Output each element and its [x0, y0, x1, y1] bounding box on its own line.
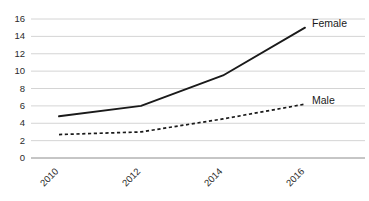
series-line-female [59, 28, 305, 117]
chart-canvas: 0246810121416 2010201220142016 FemaleMal… [0, 0, 369, 201]
gridlines [31, 19, 365, 158]
y-axis-tick-label: 10 [14, 65, 25, 76]
y-axis-tick-label: 4 [20, 117, 25, 128]
y-axis-tick-label: 12 [14, 48, 25, 59]
series-line-male [59, 104, 305, 134]
x-axis-tick-label: 2016 [284, 166, 307, 189]
line-chart: 0246810121416 2010201220142016 FemaleMal… [0, 0, 369, 201]
y-axis-tick-label: 6 [20, 100, 25, 111]
data-series [59, 28, 305, 135]
y-axis-tick-label: 0 [20, 152, 25, 163]
y-axis-tick-label: 16 [14, 13, 25, 24]
y-axis-tick-label: 2 [20, 135, 25, 146]
series-label-male: Male [312, 94, 335, 106]
x-axis-tick-labels: 2010201220142016 [38, 166, 307, 189]
y-axis-tick-label: 8 [20, 83, 25, 94]
series-label-female: Female [312, 17, 347, 29]
x-axis-tick-label: 2014 [202, 166, 225, 189]
x-axis-tick-label: 2010 [38, 166, 61, 189]
series-labels: FemaleMale [312, 17, 347, 105]
y-axis-tick-labels: 0246810121416 [14, 13, 25, 163]
y-axis-tick-label: 14 [14, 30, 25, 41]
x-axis-tick-label: 2012 [120, 166, 143, 189]
